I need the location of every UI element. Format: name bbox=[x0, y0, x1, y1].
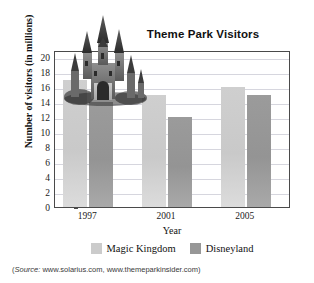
x-tick-label: 2001 bbox=[136, 211, 196, 221]
bars-layer bbox=[55, 52, 289, 207]
y-tick-label: 12 bbox=[41, 113, 51, 123]
source-close-paren: ) bbox=[198, 265, 201, 274]
legend-swatch-icon bbox=[190, 243, 201, 254]
source-text: www.solarius.com, www.themeparkinsider.c… bbox=[40, 265, 198, 274]
source-label: Source: bbox=[15, 265, 41, 274]
bar-2001-magic-kingdom bbox=[142, 95, 166, 207]
plot-area bbox=[54, 51, 290, 208]
y-tick-label: 10 bbox=[41, 128, 51, 138]
bar-2001-disneyland bbox=[168, 117, 192, 207]
legend-label: Disneyland bbox=[206, 243, 254, 254]
y-tick-label: 16 bbox=[41, 83, 51, 93]
legend-swatch-icon bbox=[91, 243, 102, 254]
y-tick-label: 4 bbox=[45, 173, 50, 183]
x-tick-label: 2005 bbox=[215, 211, 275, 221]
bar-1997-magic-kingdom bbox=[63, 80, 87, 207]
x-tick-label: 1997 bbox=[57, 211, 117, 221]
y-tick-mark bbox=[74, 208, 78, 209]
chart-legend: Magic KingdomDisneyland bbox=[54, 243, 290, 254]
y-tick-label: 2 bbox=[45, 188, 50, 198]
bar-2005-magic-kingdom bbox=[221, 87, 245, 207]
y-tick-label: 0 bbox=[45, 203, 50, 213]
bar-1997-disneyland bbox=[89, 102, 113, 207]
legend-entry-magic-kingdom: Magic Kingdom bbox=[91, 243, 176, 254]
legend-label: Magic Kingdom bbox=[107, 243, 176, 254]
y-tick-label: 18 bbox=[41, 68, 51, 78]
source-note: (Source: www.solarius.com, www.themepark… bbox=[12, 265, 200, 274]
y-tick-label: 20 bbox=[41, 53, 51, 63]
y-tick-label: 8 bbox=[45, 143, 50, 153]
chart-title: Theme Park Visitors bbox=[108, 28, 298, 40]
y-tick-label: 14 bbox=[41, 98, 51, 108]
bar-2005-disneyland bbox=[247, 95, 271, 207]
x-axis-title: Year bbox=[54, 225, 290, 236]
y-axis-tick-labels: 02468101214161820 bbox=[24, 51, 50, 208]
chart-figure: Theme Park Visitors Number of visitors (… bbox=[0, 0, 314, 283]
y-tick-label: 6 bbox=[45, 158, 50, 168]
legend-entry-disneyland: Disneyland bbox=[190, 243, 254, 254]
